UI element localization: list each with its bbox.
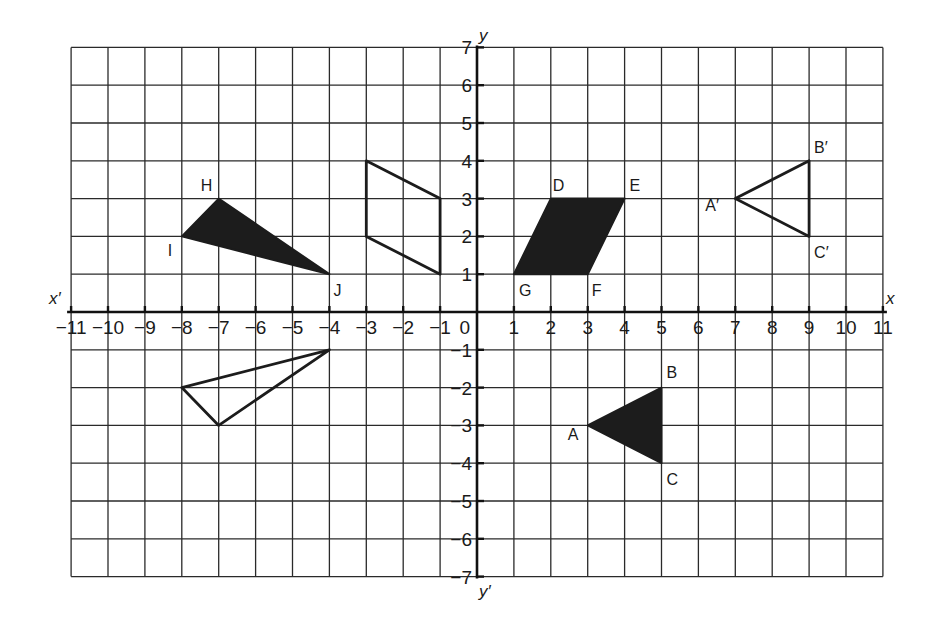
x-tick-label: −1: [429, 317, 451, 338]
y-tick-label: −6: [450, 529, 472, 550]
x-prime-axis-label: x′: [48, 289, 62, 308]
y-tick-label: 7: [461, 37, 472, 58]
y-tick-label: 2: [461, 226, 472, 247]
y-prime-axis-label: y′: [478, 582, 492, 601]
axes: [67, 45, 887, 578]
x-tick-label: −6: [245, 317, 267, 338]
y-tick-label: −4: [450, 453, 472, 474]
x-tick-label: −3: [355, 317, 377, 338]
x-tick-label: −9: [134, 317, 156, 338]
y-axis-label: y: [478, 26, 489, 45]
y-tick-label: −5: [450, 491, 472, 512]
x-tick-label: 6: [693, 317, 704, 338]
vertex-label-c: C: [667, 471, 679, 488]
x-tick-label: 10: [835, 317, 856, 338]
x-tick-label: 3: [582, 317, 593, 338]
y-tick-label: −2: [450, 378, 472, 399]
vertex-label-e: E: [630, 177, 641, 194]
y-tick-label: −3: [450, 415, 472, 436]
x-tick-label: −7: [208, 317, 230, 338]
y-tick-label: 5: [461, 113, 472, 134]
x-tick-label: −2: [392, 317, 414, 338]
x-tick-label: −8: [171, 317, 193, 338]
y-tick-label: −1: [450, 340, 472, 361]
vertex-label-h: H: [201, 177, 213, 194]
y-tick-label: 3: [461, 189, 472, 210]
vertex-label-f: F: [592, 282, 602, 299]
x-tick-label: 1: [509, 317, 520, 338]
x-axis-label: x: [885, 289, 895, 308]
vertex-label-g: G: [519, 282, 531, 299]
vertex-label-a: A: [568, 426, 579, 443]
origin-label: 0: [459, 317, 470, 338]
vertex-label-b: B: [667, 364, 678, 381]
x-tick-label: −10: [92, 317, 124, 338]
vertex-label-j: J: [333, 282, 341, 299]
y-tick-label: −7: [450, 567, 472, 588]
vertex-label-c-prime: C′: [814, 244, 829, 261]
y-tick-label: 4: [461, 151, 472, 172]
vertex-label-i: I: [168, 242, 172, 259]
labels: −11−10−9−8−7−6−5−4−3−2−11234567891011765…: [48, 26, 895, 600]
x-tick-label: 7: [730, 317, 741, 338]
x-tick-label: 9: [804, 317, 815, 338]
x-tick-label: −4: [319, 317, 341, 338]
x-tick-label: 5: [656, 317, 667, 338]
x-tick-label: 2: [546, 317, 557, 338]
x-tick-label: 11: [873, 317, 893, 338]
vertex-label-d: D: [553, 177, 565, 194]
y-tick-label: 1: [461, 264, 472, 285]
x-tick-label: −5: [282, 317, 304, 338]
vertex-label-b-prime: B′: [814, 139, 828, 156]
y-tick-label: 6: [461, 75, 472, 96]
coordinate-plane: −11−10−9−8−7−6−5−4−3−2−11234567891011765…: [0, 0, 939, 625]
x-tick-label: 8: [767, 317, 778, 338]
x-tick-label: 4: [619, 317, 630, 338]
x-tick-label: −11: [56, 317, 87, 338]
vertex-label-a-prime: A′: [705, 197, 719, 214]
